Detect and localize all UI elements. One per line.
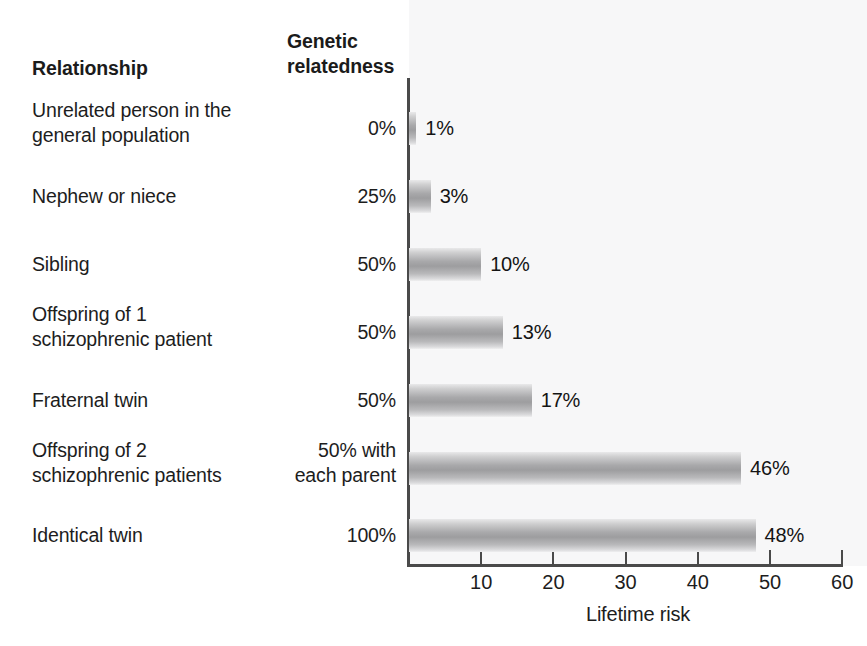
row-genetic-relatedness: 50% bbox=[215, 388, 396, 413]
x-axis-tick bbox=[841, 550, 843, 565]
bar-value-label: 10% bbox=[490, 253, 529, 276]
row-genetic-relatedness-line1: 50% bbox=[215, 320, 396, 345]
bar bbox=[409, 519, 756, 552]
x-axis-tick-label: 40 bbox=[673, 571, 723, 594]
bar-value-label: 13% bbox=[512, 321, 551, 344]
row-genetic-relatedness-line2: each parent bbox=[215, 463, 396, 488]
row-genetic-relatedness-line1: 50% bbox=[215, 388, 396, 413]
row-genetic-relatedness-line1: 50% with bbox=[215, 438, 396, 463]
row-genetic-relatedness: 25% bbox=[215, 184, 396, 209]
row-genetic-relatedness: 50% witheach parent bbox=[215, 438, 396, 488]
bar bbox=[409, 452, 741, 485]
bar-value-label: 46% bbox=[750, 457, 789, 480]
x-axis-tick-label: 50 bbox=[745, 571, 795, 594]
row-genetic-relatedness-line1: 50% bbox=[215, 252, 396, 277]
column-header-genetic-relatedness-line2: relatedness bbox=[287, 54, 407, 79]
row-genetic-relatedness: 50% bbox=[215, 252, 396, 277]
x-axis-tick-label: 10 bbox=[456, 571, 506, 594]
row-genetic-relatedness-line1: 100% bbox=[215, 523, 396, 548]
schizophrenia-risk-chart: Relationship Genetic relatedness 1020304… bbox=[0, 0, 867, 646]
bar-value-label: 17% bbox=[541, 389, 580, 412]
x-axis-tick-label: 60 bbox=[817, 571, 867, 594]
bar bbox=[409, 384, 532, 417]
row-genetic-relatedness: 50% bbox=[215, 320, 396, 345]
bar bbox=[409, 316, 503, 349]
x-axis-tick bbox=[769, 550, 771, 565]
bar-value-label: 3% bbox=[440, 185, 469, 208]
row-genetic-relatedness: 0% bbox=[215, 116, 396, 141]
column-header-genetic-relatedness-line1: Genetic bbox=[287, 29, 407, 54]
bar bbox=[409, 180, 431, 213]
column-header-genetic-relatedness: Genetic relatedness bbox=[287, 29, 407, 79]
column-header-relationship: Relationship bbox=[32, 57, 148, 80]
row-genetic-relatedness-line1: 25% bbox=[215, 184, 396, 209]
row-genetic-relatedness-line1: 0% bbox=[215, 116, 396, 141]
x-axis-title: Lifetime risk bbox=[409, 603, 867, 626]
bar bbox=[409, 112, 416, 145]
x-axis-tick-label: 30 bbox=[601, 571, 651, 594]
row-genetic-relatedness: 100% bbox=[215, 523, 396, 548]
bar-value-label: 1% bbox=[425, 117, 454, 140]
x-axis-tick-label: 20 bbox=[528, 571, 578, 594]
bar bbox=[409, 248, 481, 281]
bar-value-label: 48% bbox=[765, 524, 804, 547]
